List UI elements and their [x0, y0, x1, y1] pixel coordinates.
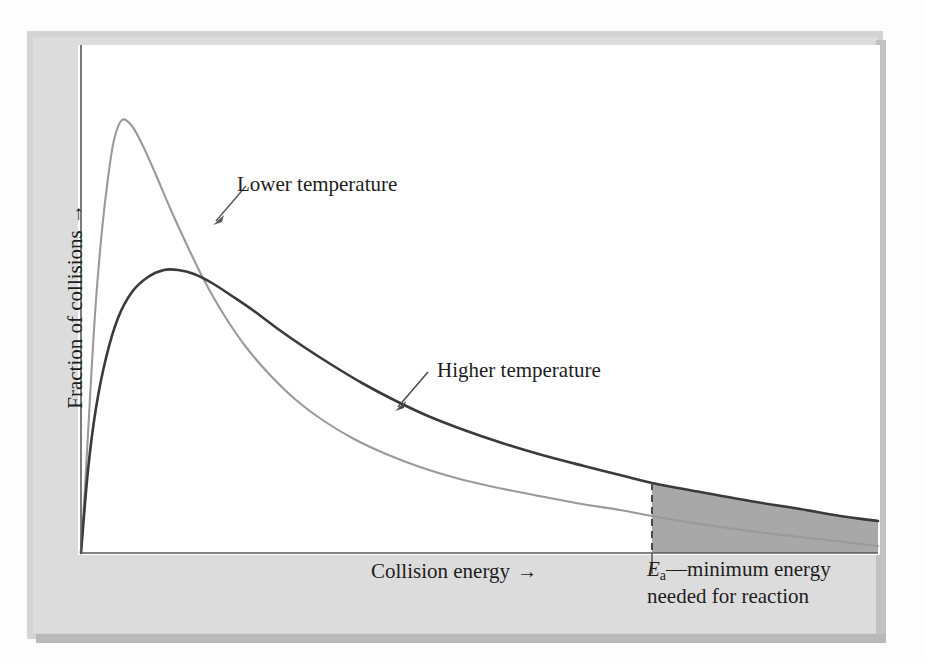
figure-root: Lower temperature Higher temperature Col… — [0, 0, 926, 662]
higher-temperature-leader — [395, 372, 428, 411]
lower-temperature-label: Lower temperature — [237, 172, 397, 197]
x-axis-label: Collision energy→ — [371, 559, 537, 584]
y-axis-arrow-icon: → — [64, 204, 86, 230]
activation-energy-label: Ea—minimum energy needed for reaction — [647, 557, 862, 609]
x-axis-label-text: Collision energy — [371, 559, 510, 583]
activation-energy-description: —minimum energy needed for reaction — [647, 557, 831, 608]
y-axis-label: Fraction of collisions→ — [63, 167, 88, 447]
activation-energy-symbol: E — [647, 557, 660, 581]
y-axis-label-text: Fraction of collisions — [63, 230, 87, 408]
x-axis-arrow-icon: → — [510, 560, 537, 582]
lower-temperature-curve — [81, 119, 878, 553]
higher-temperature-label: Higher temperature — [437, 358, 601, 383]
